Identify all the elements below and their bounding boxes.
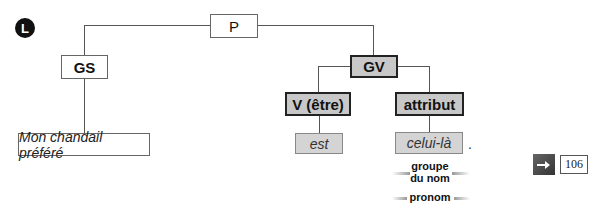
connector-gs-down <box>84 79 85 133</box>
node-gs: GS <box>61 55 108 79</box>
node-gs-label: GS <box>74 59 96 76</box>
label-groupe-line2: du nom <box>408 172 452 184</box>
node-verb-label: V (être) <box>292 96 344 113</box>
connector-attribut-down <box>429 116 430 132</box>
connector-to-gv <box>373 25 374 55</box>
dash-pronom-right <box>454 197 470 200</box>
reference-page-text: 106 <box>565 157 583 172</box>
arrow-right-icon <box>537 160 551 170</box>
reference-arrow-button[interactable] <box>533 154 555 175</box>
node-verb: V (être) <box>285 92 351 116</box>
reference-page-number[interactable]: 106 <box>560 155 588 174</box>
connector-to-gs <box>84 25 85 55</box>
label-groupe-du-nom: groupe du nom <box>408 160 452 184</box>
node-p: P <box>210 14 258 38</box>
node-gv-label: GV <box>363 58 385 75</box>
dash-groupe-right <box>452 172 470 175</box>
connector-root-right <box>258 25 374 26</box>
word-subject-text: Mon chandail préféré <box>19 129 149 161</box>
connector-root-left <box>84 25 210 26</box>
section-marker: L <box>15 18 35 38</box>
connector-to-verb <box>318 66 319 92</box>
dash-pronom-left <box>392 197 407 200</box>
word-verb: est <box>295 133 343 154</box>
word-subject: Mon chandail préféré <box>18 133 150 156</box>
label-pronom: pronom <box>406 191 454 203</box>
node-gv: GV <box>350 55 398 78</box>
connector-to-attribut <box>429 66 430 92</box>
connector-gv-left <box>318 66 350 67</box>
connector-gv-right <box>398 66 429 67</box>
word-attribut: celui-là <box>395 132 463 154</box>
label-groupe-line1: groupe <box>408 160 452 172</box>
node-attribut: attribut <box>395 92 464 116</box>
node-p-label: P <box>229 18 239 35</box>
word-attribut-text: celui-là <box>407 135 451 151</box>
connector-verb-down <box>319 116 320 133</box>
word-verb-text: est <box>310 136 329 152</box>
sentence-period: . <box>468 136 472 152</box>
marker-letter: L <box>21 21 29 36</box>
node-attribut-label: attribut <box>404 96 456 113</box>
